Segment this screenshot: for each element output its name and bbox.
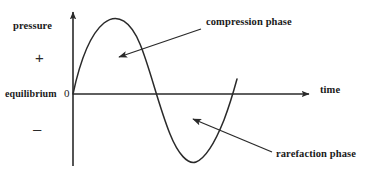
equilibrium-label: equilibrium: [5, 89, 57, 99]
pressure-waveform-curve: [73, 19, 237, 163]
negative-sign-label: –: [33, 121, 41, 136]
rarefaction-phase-label: rarefaction phase: [276, 149, 356, 160]
time-axis-label: time: [320, 85, 340, 96]
compression-phase-label: compression phase: [206, 17, 292, 28]
pressure-time-diagram: pressure time equilibrium 0 + – compress…: [0, 0, 376, 176]
positive-sign-label: +: [35, 50, 44, 65]
pressure-axis-label: pressure: [13, 21, 52, 32]
compression-phase-arrow: [119, 29, 201, 57]
rarefaction-phase-arrow: [193, 119, 272, 152]
origin-zero-label: 0: [64, 88, 70, 99]
